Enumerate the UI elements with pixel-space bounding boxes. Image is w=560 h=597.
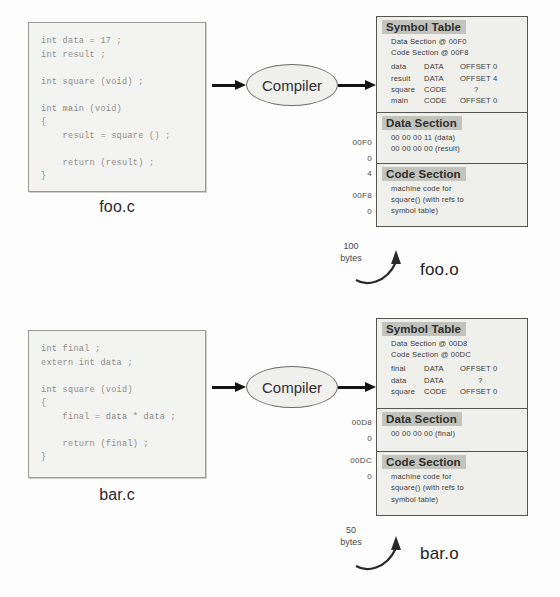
compilation-unit-bar: int final ; extern int data ; int square…	[0, 310, 560, 597]
arrow-right-icon	[212, 80, 246, 90]
symbol-offset: OFFSET 0	[460, 61, 497, 72]
arrow-right-icon	[338, 382, 376, 392]
address-label: 00DC	[330, 456, 372, 465]
symbol-offset: ?	[460, 84, 478, 95]
section-title: Symbol Table	[382, 20, 466, 34]
symbol-table-data-section-line: Data Section @ 00D8	[391, 338, 521, 349]
symbol-kind: DATA	[424, 375, 460, 386]
symbol-name: main	[391, 95, 424, 106]
address-label: 0	[330, 207, 372, 216]
object-file-name-bar: bar.o	[420, 544, 459, 564]
code-line: machine code for	[391, 183, 521, 194]
data-word: 00 00 00 00 (result)	[391, 143, 521, 154]
symbol-row: square CODE ?	[391, 84, 521, 95]
code-line: machine code for	[391, 471, 521, 482]
symbol-table-section-foo: Symbol Table Data Section @ 00F0 Code Se…	[377, 17, 527, 113]
source-code-foo: int data = 17 ; int result ; int square …	[41, 35, 195, 184]
symbol-row: data DATA ?	[391, 375, 521, 386]
symbol-row: result DATA OFFSET 4	[391, 73, 521, 84]
code-section-foo: Code Section machine code for square() (…	[377, 164, 527, 227]
symbol-name: final	[391, 363, 424, 374]
symbol-kind: CODE	[424, 386, 460, 397]
arrow-right-icon	[338, 80, 376, 90]
symbol-offset: ?	[460, 375, 482, 386]
symbol-offset: OFFSET 0	[460, 95, 497, 106]
address-label: 4	[330, 169, 372, 178]
symbol-offset: OFFSET 4	[460, 73, 497, 84]
compilation-unit-foo: int data = 17 ; int result ; int square …	[0, 8, 560, 298]
code-section-bar: Code Section machine code for square() (…	[377, 452, 527, 515]
symbol-kind: DATA	[424, 61, 460, 72]
section-title: Symbol Table	[382, 322, 466, 336]
data-word: 00 00 00 11 (data)	[391, 132, 521, 143]
symbol-table-code-section-line: Code Section @ 00F8	[391, 47, 521, 58]
section-title: Code Section	[382, 167, 466, 181]
section-title: Data Section	[382, 412, 462, 426]
diagram-canvas: int data = 17 ; int result ; int square …	[0, 0, 560, 597]
source-file-box-bar: int final ; extern int data ; int square…	[28, 330, 206, 478]
symbol-name: result	[391, 73, 424, 84]
symbol-name: data	[391, 61, 424, 72]
address-label: 0	[330, 154, 372, 163]
symbol-name: square	[391, 386, 424, 397]
compiler-node-foo: Compiler	[246, 64, 338, 106]
source-file-box-foo: int data = 17 ; int result ; int square …	[28, 22, 206, 192]
compiler-node-bar: Compiler	[246, 366, 338, 408]
code-line: symbol table)	[391, 494, 521, 505]
address-label: 00F0	[330, 138, 372, 147]
symbol-name: data	[391, 375, 424, 386]
data-section-bar: Data Section 00 00 00 00 (final)	[377, 409, 527, 452]
symbol-table-code-section-line: Code Section @ 00DC	[391, 349, 521, 360]
section-title: Data Section	[382, 116, 462, 130]
symbol-name: square	[391, 84, 424, 95]
code-line: square() (with refs to	[391, 194, 521, 205]
arrow-right-icon	[212, 382, 246, 392]
object-file-name-foo: foo.o	[420, 260, 459, 280]
symbol-table-section-bar: Symbol Table Data Section @ 00D8 Code Se…	[377, 319, 527, 409]
address-label: 0	[330, 472, 372, 481]
symbol-kind: DATA	[424, 73, 460, 84]
symbol-row: main CODE OFFSET 0	[391, 95, 521, 106]
symbol-table-data-section-line: Data Section @ 00F0	[391, 36, 521, 47]
object-file-box-bar: Symbol Table Data Section @ 00D8 Code Se…	[376, 318, 528, 516]
symbol-row: final DATA OFFSET 0	[391, 363, 521, 374]
symbol-kind: CODE	[424, 95, 460, 106]
section-title: Code Section	[382, 455, 466, 469]
address-label: 0	[330, 434, 372, 443]
data-section-foo: Data Section 00 00 00 11 (data) 00 00 00…	[377, 113, 527, 163]
symbol-kind: CODE	[424, 84, 460, 95]
code-line: symbol table)	[391, 205, 521, 216]
symbol-offset: OFFSET 0	[460, 386, 497, 397]
source-code-bar: int final ; extern int data ; int square…	[41, 343, 195, 465]
data-word: 00 00 00 00 (final)	[391, 428, 521, 439]
compiler-label: Compiler	[262, 77, 322, 94]
source-file-name-bar: bar.c	[28, 486, 206, 504]
source-file-name-foo: foo.c	[28, 198, 206, 216]
code-line: square() (with refs to	[391, 482, 521, 493]
symbol-row: data DATA OFFSET 0	[391, 61, 521, 72]
symbol-row: square CODE OFFSET 0	[391, 386, 521, 397]
curved-arrow-icon	[352, 244, 422, 286]
symbol-kind: DATA	[424, 363, 460, 374]
object-file-box-foo: Symbol Table Data Section @ 00F0 Code Se…	[376, 16, 528, 227]
address-label: 00F8	[330, 191, 372, 200]
compiler-label: Compiler	[262, 379, 322, 396]
symbol-offset: OFFSET 0	[460, 363, 497, 374]
curved-arrow-icon	[352, 528, 422, 572]
address-label: 00D8	[330, 418, 372, 427]
